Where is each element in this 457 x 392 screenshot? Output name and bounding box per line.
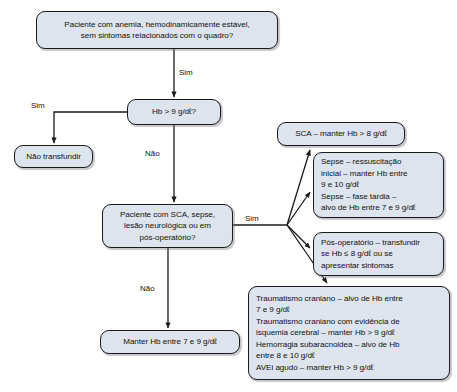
- node-acute-coronary-syndrome-label: SCA – manter Hb > 8 g/dℓ: [278, 128, 404, 139]
- node-top-question-label: Paciente com anemia, hemodinamicamente e…: [37, 19, 277, 42]
- node-sepsis-label: Sepse – ressuscitação inicial – manter H…: [314, 156, 443, 213]
- node-comorbidity-question[interactable]: Paciente com SCA, sepse, lesão neurológi…: [102, 204, 233, 248]
- node-top-question[interactable]: Paciente com anemia, hemodinamicamente e…: [36, 11, 278, 49]
- edge-fan-to-sca: [287, 150, 310, 225]
- node-maintain-hb-target-label: Manter Hb entre 7 e 9 g/dℓ: [101, 336, 239, 347]
- edge-label-hb-no: Não: [145, 149, 160, 158]
- node-post-operative[interactable]: Pós-operatório – transfundir se Hb ≤ 8 g…: [313, 232, 444, 276]
- node-do-not-transfuse[interactable]: Não transfundir: [14, 145, 93, 168]
- edge-label-hb-yes: Sim: [31, 101, 45, 110]
- node-neurologic-injury-label: Traumatismo craniano – alvo de Hb entre …: [249, 293, 449, 373]
- edge-label-top-to-hb: Sim: [179, 68, 193, 77]
- node-maintain-hb-target[interactable]: Manter Hb entre 7 e 9 g/dℓ: [100, 330, 240, 354]
- node-sepsis[interactable]: Sepse – ressuscitação inicial – manter H…: [313, 152, 444, 218]
- node-hb-threshold-question[interactable]: Hb > 9 g/dℓ?: [127, 99, 221, 125]
- edge-hb-yes: [54, 112, 127, 143]
- edge-fan-to-sepse: [287, 192, 310, 225]
- node-neurologic-injury[interactable]: Traumatismo craniano – alvo de Hb entre …: [248, 286, 450, 380]
- flowchart-canvas: Paciente com anemia, hemodinamicamente e…: [0, 0, 457, 392]
- edge-fan-to-posop: [287, 225, 310, 248]
- edge-label-mid-no: Não: [140, 284, 155, 293]
- node-acute-coronary-syndrome[interactable]: SCA – manter Hb > 8 g/dℓ: [277, 122, 405, 146]
- node-do-not-transfuse-label: Não transfundir: [15, 151, 92, 162]
- node-post-operative-label: Pós-operatório – transfundir se Hb ≤ 8 g…: [314, 237, 443, 271]
- node-hb-threshold-question-label: Hb > 9 g/dℓ?: [128, 106, 220, 117]
- edge-label-mid-yes: Sim: [245, 214, 259, 223]
- node-comorbidity-question-label: Paciente com SCA, sepse, lesão neurológi…: [103, 209, 232, 243]
